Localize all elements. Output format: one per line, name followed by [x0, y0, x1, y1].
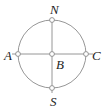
point-marker-s: [50, 86, 55, 91]
point-label-a: A: [3, 48, 12, 63]
point-marker-c: [84, 52, 89, 57]
point-label-b: B: [56, 57, 64, 72]
diagram-canvas: NABCS: [0, 0, 108, 110]
point-marker-a: [16, 52, 21, 57]
point-label-n: N: [49, 2, 60, 17]
point-marker-b: [50, 52, 55, 57]
point-marker-n: [50, 18, 55, 23]
point-label-s: S: [50, 94, 57, 109]
circle-diagram: NABCS: [0, 0, 108, 110]
point-label-c: C: [92, 48, 101, 63]
